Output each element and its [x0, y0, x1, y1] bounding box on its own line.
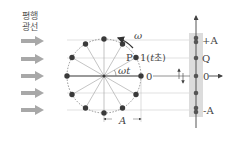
light-ray-icon: [21, 88, 44, 98]
label-radius-A: A: [118, 115, 126, 126]
light-ray-arrows: [21, 36, 44, 115]
label-plus-A: +A: [202, 35, 218, 46]
point-P: [133, 55, 138, 60]
label-Q: Q: [202, 53, 210, 64]
point-Q: [194, 56, 199, 61]
uniform-circular-motion-diagram: P 1(t초) ω ωt 0 A +A Q 0 -A: [0, 0, 238, 145]
light-ray-icon: [21, 105, 44, 115]
label-P: P: [126, 52, 133, 63]
label-circle-zero: 0: [146, 71, 152, 82]
label-axis-zero: 0: [203, 71, 209, 82]
label-omega: ω: [134, 30, 142, 41]
label-minus-A: -A: [203, 105, 214, 116]
projection-guides: [67, 40, 196, 110]
label-time-1: 1(t초): [140, 52, 166, 63]
label-omega-t: ωt: [118, 65, 131, 76]
light-ray-icon: [21, 54, 44, 64]
light-ray-icon: [21, 36, 44, 46]
light-ray-icon: [21, 71, 44, 81]
